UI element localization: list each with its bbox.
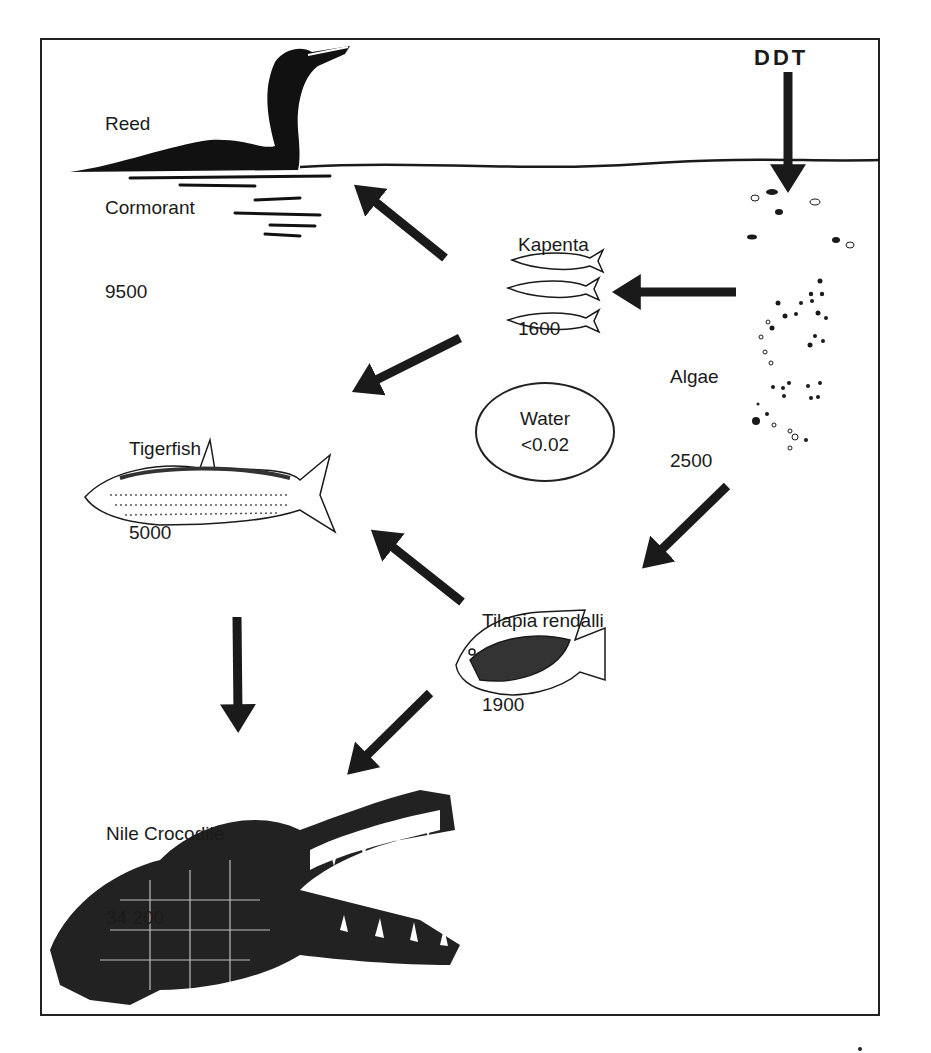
tilapia-label: Tilapia rendalli 1900 — [482, 551, 604, 747]
tilapia-value: 1900 — [482, 691, 604, 719]
cormorant-label: Reed Cormorant 9500 — [105, 54, 195, 334]
tigerfish-icon — [85, 440, 335, 532]
tilapia-name: Tilapia rendalli — [482, 607, 604, 635]
kapenta-name: Kapenta — [518, 231, 589, 259]
stray-dot — [858, 1047, 862, 1051]
crocodile-value: 34 200 — [106, 904, 224, 932]
cormorant-name-line2: Cormorant — [105, 194, 195, 222]
kapenta-label: Kapenta 1600 — [518, 175, 589, 371]
tigerfish-label: Tigerfish 5000 — [129, 379, 201, 575]
tigerfish-name: Tigerfish — [129, 435, 201, 463]
kapenta-value: 1600 — [518, 315, 589, 343]
crocodile-label: Nile Crocodile 34 200 — [106, 764, 224, 960]
arrow-kapenta-to-tigerfish — [368, 338, 460, 384]
arrow-kapenta-to-cormorant — [368, 196, 445, 258]
water-node: Water <0.02 — [475, 382, 615, 482]
arrow-tilapia-to-tigerfish — [385, 541, 462, 602]
algae-name: Algae — [670, 363, 719, 391]
cormorant-value: 9500 — [105, 278, 195, 306]
tigerfish-value: 5000 — [129, 519, 201, 547]
cormorant-name-line1: Reed — [105, 110, 195, 138]
water-name: Water — [477, 406, 613, 432]
algae-label: Algae 2500 — [670, 307, 719, 503]
crocodile-name: Nile Crocodile — [106, 820, 224, 848]
arrow-tilapia-to-crocodile — [360, 693, 430, 762]
water-surface-line — [300, 160, 880, 167]
algae-value: 2500 — [670, 447, 719, 475]
ddt-source-label: DDT — [754, 45, 808, 71]
water-value: <0.02 — [477, 432, 613, 458]
arrow-tigerfish-to-crocodile — [237, 617, 238, 715]
algae-icon — [747, 189, 854, 450]
